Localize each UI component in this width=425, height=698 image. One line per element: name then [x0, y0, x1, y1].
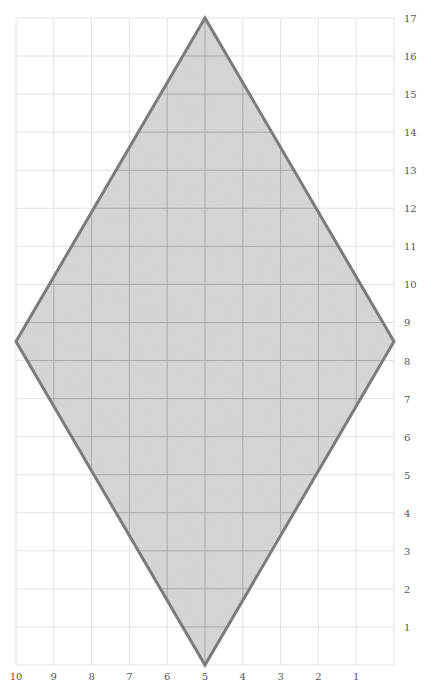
x-tick-label: 9 — [51, 671, 57, 682]
x-tick-label: 7 — [126, 671, 132, 682]
y-tick-label: 14 — [404, 127, 417, 138]
y-tick-label: 10 — [404, 279, 417, 290]
y-tick-label: 3 — [404, 546, 410, 557]
y-tick-label: 15 — [404, 89, 417, 100]
y-tick-label: 8 — [404, 356, 410, 367]
x-tick-label: 5 — [202, 671, 208, 682]
y-tick-label: 2 — [404, 584, 410, 595]
x-axis-labels: 10987654321 — [10, 671, 360, 682]
y-tick-label: 5 — [404, 470, 410, 481]
y-tick-label: 6 — [404, 432, 410, 443]
y-tick-label: 1 — [404, 622, 410, 633]
x-tick-label: 10 — [10, 671, 23, 682]
y-tick-label: 7 — [404, 394, 410, 405]
y-tick-label: 13 — [404, 165, 417, 176]
x-tick-label: 2 — [315, 671, 321, 682]
y-tick-label: 17 — [404, 13, 417, 24]
y-tick-label: 16 — [404, 51, 417, 62]
y-tick-label: 9 — [404, 317, 410, 328]
x-tick-label: 3 — [277, 671, 283, 682]
diagram-canvas: 10987654321 1234567891011121314151617 — [0, 0, 425, 698]
y-tick-label: 4 — [404, 508, 410, 519]
x-tick-label: 6 — [164, 671, 170, 682]
y-axis-labels: 1234567891011121314151617 — [404, 13, 417, 633]
x-tick-label: 4 — [240, 671, 246, 682]
x-tick-label: 8 — [88, 671, 94, 682]
x-tick-label: 1 — [353, 671, 359, 682]
y-tick-label: 11 — [404, 241, 417, 252]
y-tick-label: 12 — [404, 203, 417, 214]
